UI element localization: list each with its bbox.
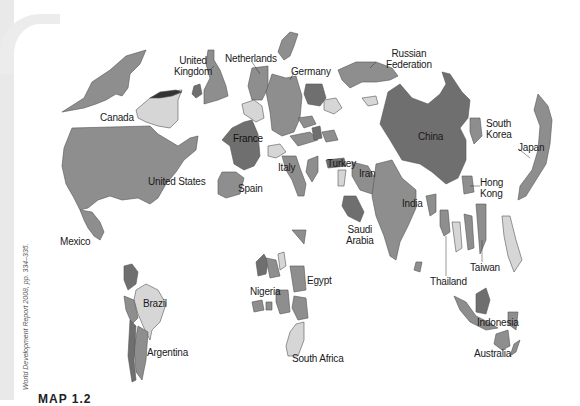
country-east-africa [292, 296, 308, 320]
label-australia: Australia [474, 348, 511, 359]
label-south-africa: South Africa [292, 353, 344, 364]
country-new-zealand [510, 340, 520, 356]
label-canada: Canada [100, 112, 134, 123]
label-south-korea: South Korea [486, 118, 512, 140]
label-india: India [402, 198, 423, 209]
label-saudi-arabia: Saudi Arabia [346, 224, 374, 246]
country-united-states [62, 126, 198, 210]
country-yemen [292, 230, 306, 244]
country-france [222, 120, 260, 170]
label-taiwan: Taiwan [470, 262, 500, 273]
label-netherlands: Netherlands [225, 53, 277, 64]
country-philippines [502, 216, 522, 272]
country-ghana [266, 302, 272, 310]
country-south-africa [286, 322, 304, 356]
label-france: France [233, 133, 263, 144]
country-belgium [242, 100, 264, 122]
label-nigeria: Nigeria [250, 286, 280, 297]
country-hong-kong [462, 176, 474, 194]
country-argentina [134, 326, 148, 380]
label-united-kingdom: United Kingdom [174, 55, 212, 77]
label-brazil: Brazil [143, 298, 167, 309]
country-libya [278, 252, 286, 270]
country-taiwan [476, 204, 486, 254]
country-sri-lanka [414, 262, 422, 272]
country-west-africa [252, 300, 264, 312]
country-vietnam [464, 214, 474, 250]
country-germany [266, 74, 302, 136]
label-spain: Spain [238, 183, 263, 194]
source-credit: World Development Report 2008, pp. 334–3… [22, 250, 34, 390]
label-hong-kong: Hong Kong [480, 177, 503, 199]
label-united-states: United States [148, 176, 205, 187]
label-thailand: Thailand [430, 276, 467, 287]
country-czech [298, 116, 316, 128]
country-thailand [440, 210, 450, 236]
country-israel [338, 170, 346, 186]
country-saudi-arabia [342, 196, 364, 222]
country-morocco [256, 254, 268, 276]
country-ukraine [324, 98, 342, 114]
country-scandinavia [278, 32, 298, 60]
map-caption: MAP 1.2 [38, 392, 91, 406]
country-kazakhstan [362, 96, 378, 106]
label-mexico: Mexico [60, 236, 90, 247]
country-australia [494, 330, 510, 350]
label-japan: Japan [518, 142, 544, 153]
label-russian-federation: Russian Federation [386, 48, 432, 70]
country-egypt [290, 266, 306, 292]
country-myanmar [426, 194, 436, 216]
country-india [372, 160, 416, 260]
country-laos [452, 222, 462, 252]
label-germany: Germany [291, 66, 331, 77]
country-south-korea [470, 118, 482, 144]
country-colombia [124, 264, 138, 290]
label-china: China [418, 131, 443, 142]
label-turkey: Turkey [327, 158, 356, 169]
label-iran: Iran [359, 168, 375, 179]
country-romania [322, 130, 338, 142]
country-greece [306, 156, 318, 182]
country-chile [128, 320, 136, 382]
country-hungary [312, 126, 322, 140]
country-poland [304, 84, 326, 106]
country-ireland [192, 84, 202, 98]
country-borneo [476, 288, 490, 314]
label-egypt: Egypt [307, 275, 332, 286]
label-italy: Italy [278, 162, 295, 173]
country-alaska [62, 50, 146, 112]
label-indonesia: Indonesia [477, 317, 519, 328]
country-algeria [266, 258, 280, 278]
label-argentina: Argentina [147, 347, 188, 358]
